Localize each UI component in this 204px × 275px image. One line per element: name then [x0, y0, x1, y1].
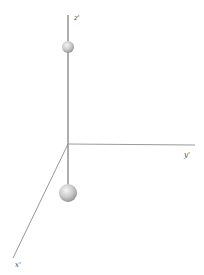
- x-axis-label: x': [15, 261, 21, 269]
- upper-sphere: [62, 41, 74, 53]
- axes-diagram: z' y' x': [0, 0, 204, 275]
- y-axis-line: [68, 144, 195, 145]
- y-axis-label: y': [183, 151, 190, 159]
- z-axis-label: z': [73, 14, 80, 22]
- lower-sphere: [59, 184, 77, 202]
- x-axis-line: [13, 144, 68, 258]
